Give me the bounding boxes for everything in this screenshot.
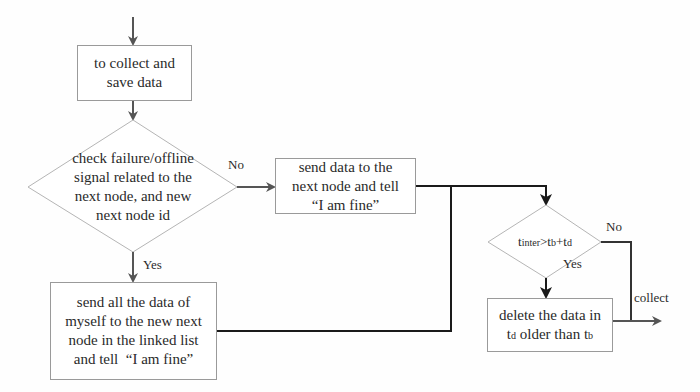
time-no-label: No xyxy=(606,219,622,234)
check-diamond-text: check failure/offline signal related to … xyxy=(40,142,226,232)
d-subscript: d xyxy=(567,237,572,248)
diamond-text-line: next node id xyxy=(72,206,194,225)
collect-save-data-box: to collect and save data xyxy=(77,45,192,101)
diamond-text-line: next node, and new xyxy=(72,187,194,206)
diamond-text-line: check failure/offline xyxy=(72,149,194,168)
box-text-line: and tell “I am fine” xyxy=(65,350,202,369)
check-yes-label: Yes xyxy=(143,257,162,272)
inter-subscript: inter xyxy=(522,237,540,248)
box-text-line: td older than tb xyxy=(499,325,601,345)
box-text-line: “I am fine” xyxy=(292,196,399,215)
time-yes-label: Yes xyxy=(563,256,582,271)
box-text-line: node in the linked list xyxy=(65,331,202,350)
box-text-line: save data xyxy=(94,73,175,92)
box-text-line: next node and tell xyxy=(292,177,399,196)
flowchart: to collect and save data check failure/o… xyxy=(0,0,700,392)
send-data-fine-box: send data to the next node and tell “I a… xyxy=(275,158,416,214)
time-check-diamond-text: tinter>tb+td xyxy=(495,232,595,252)
box-text-line: myself to the new next xyxy=(65,312,202,331)
send-all-data-box: send all the data of myself to the new n… xyxy=(50,282,217,380)
line-send-to-time-check xyxy=(415,186,546,204)
diamond-text-line: signal related to the xyxy=(72,168,194,187)
b-subscript: b xyxy=(588,330,593,341)
older-than-text: older than xyxy=(516,326,584,342)
box-text-line: send data to the xyxy=(292,158,399,177)
box-text-line: send all the data of xyxy=(65,293,202,312)
box-text-line: to collect and xyxy=(94,54,175,73)
box-text-line: delete the data in xyxy=(499,306,601,325)
collect-label: collect xyxy=(634,290,669,305)
delete-data-box: delete the data in td older than tb xyxy=(487,298,613,352)
check-no-label: No xyxy=(228,157,244,172)
